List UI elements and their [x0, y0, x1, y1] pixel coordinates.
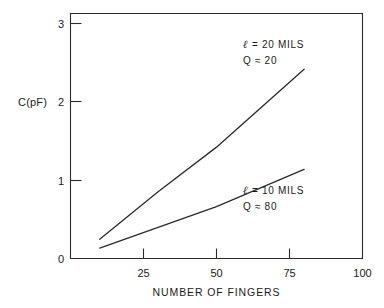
- y-tick-label-1: 1: [58, 175, 64, 187]
- annotation-lower-line1: = 10 MILS: [252, 185, 304, 196]
- x-axis-title: NUMBER OF FINGERS: [153, 286, 281, 298]
- x-tick-label-100: 100: [353, 267, 371, 279]
- y-tick-label-0: 0: [58, 253, 64, 265]
- x-tick-label-50: 50: [210, 267, 222, 279]
- annotation-upper: ℓ = 20 MILS Q ≈ 20: [243, 38, 304, 66]
- annotation-upper-line2: Q ≈ 20: [243, 55, 277, 66]
- x-tick-label-25: 25: [137, 267, 149, 279]
- y-tick-label-2: 2: [58, 96, 64, 108]
- x-tick-label-75: 75: [283, 267, 295, 279]
- y-axis-title: C(pF): [18, 96, 47, 108]
- annotation-lower-line2: Q ≈ 80: [243, 201, 277, 212]
- annotation-upper-symbol: ℓ: [243, 38, 248, 50]
- annotation-lower-symbol: ℓ: [243, 184, 248, 196]
- line-chart: 3 2 1 0 C(pF) 25 50 75 100 NUMBER OF FIN…: [0, 0, 384, 308]
- chart-figure: 3 2 1 0 C(pF) 25 50 75 100 NUMBER OF FIN…: [0, 0, 384, 308]
- plot-frame: [71, 14, 363, 259]
- y-tick-label-3: 3: [58, 18, 64, 30]
- annotation-upper-line1: = 20 MILS: [252, 39, 304, 50]
- annotation-lower: ℓ = 10 MILS Q ≈ 80: [243, 184, 304, 212]
- data-line-20-mils: [100, 69, 304, 239]
